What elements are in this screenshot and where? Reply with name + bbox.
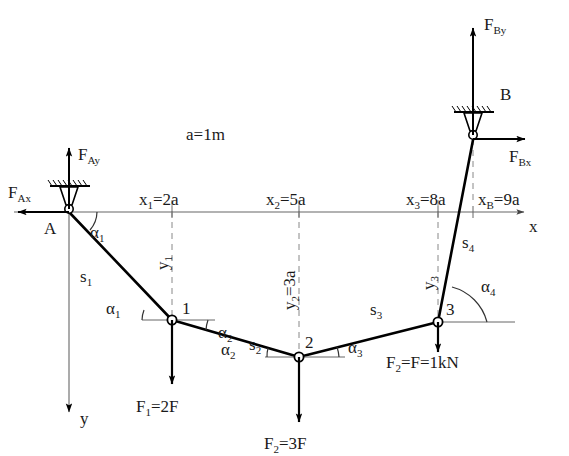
xb-value: =9a <box>494 190 520 209</box>
s4-base: s <box>462 233 469 252</box>
s1-sub: 1 <box>87 276 93 288</box>
s1-base: s <box>80 267 87 286</box>
s4-sub: 4 <box>469 242 475 254</box>
svg-text:s2: s2 <box>249 335 261 356</box>
x-coordinate-label-1: x1=2a <box>139 190 179 211</box>
y-axis-label: y <box>80 409 89 428</box>
f2-value: =3F <box>279 434 307 453</box>
a3-sub: 3 <box>357 347 363 359</box>
truss-members <box>69 140 473 357</box>
load-f2-label: F2=3F <box>264 434 307 455</box>
svg-text:s3: s3 <box>370 300 383 321</box>
member-label-s4: s4 <box>462 233 475 254</box>
a4-base: α <box>481 277 490 296</box>
a1n-base: α <box>106 299 115 318</box>
member-label-s1: s1 <box>80 267 92 288</box>
svg-text:s1: s1 <box>80 267 92 288</box>
fax-base: F <box>8 183 17 202</box>
fay-sub: Ay <box>87 154 100 166</box>
fbx-base: F <box>509 147 518 166</box>
diagram-canvas: x y a=1m x1=2a x2=5a x3=8a xB=9a <box>0 0 569 456</box>
support-b-label: B <box>500 85 511 104</box>
a2b-sub: 2 <box>230 349 236 361</box>
member-s2 <box>172 320 299 357</box>
node-label-1: 1 <box>182 299 191 318</box>
x3-value: =8a <box>420 190 446 209</box>
svg-text:xB=9a: xB=9a <box>478 190 520 211</box>
s2-sub: 2 <box>256 344 262 356</box>
arc-alpha2-at-node1 <box>206 320 208 330</box>
support-a-label: A <box>44 219 57 238</box>
fby-sub: By <box>493 24 506 36</box>
fay-base: F <box>78 145 87 164</box>
angle-label-alpha1-node1: α1 <box>106 299 120 320</box>
load-f3-label: F2=F=1kN <box>386 353 459 374</box>
arc-alpha3-at-node2 <box>337 347 339 357</box>
arc-alpha2-at-node2 <box>267 348 268 357</box>
y-coordinate-label-1: y1 <box>153 256 174 270</box>
s3-base: s <box>370 300 377 319</box>
f1-value: =2F <box>151 397 179 416</box>
xb-sub: B <box>487 199 494 211</box>
svg-text:x1=2a: x1=2a <box>139 190 179 211</box>
reaction-fby-label: FBy <box>484 15 507 36</box>
y-coordinate-label-2: y2=3a <box>280 270 301 310</box>
f2-base: F <box>264 434 273 453</box>
scale-note: a=1m <box>186 125 225 144</box>
svg-text:y2=3a: y2=3a <box>280 270 301 310</box>
angle-label-alpha1-a: α1 <box>90 223 104 244</box>
f1-base: F <box>136 397 145 416</box>
x-coordinate-label-2: x2=5a <box>266 190 306 211</box>
fax-sub: Ax <box>17 192 31 204</box>
svg-text:x3=8a: x3=8a <box>406 190 446 211</box>
a1a-sub: 1 <box>99 232 105 244</box>
y2-value: =3a <box>280 270 299 296</box>
angle-label-alpha2-node2: α2 <box>221 340 235 361</box>
reaction-fay-label: FAy <box>78 145 100 166</box>
a4-sub: 4 <box>490 286 496 298</box>
svg-text:y3: y3 <box>419 276 440 291</box>
a1a-base: α <box>90 223 99 242</box>
node-label-2: 2 <box>305 333 314 352</box>
reaction-fax-label: FAx <box>8 183 31 204</box>
x2-value: =5a <box>280 190 306 209</box>
angle-reference-lines <box>142 320 515 357</box>
a1n-sub: 1 <box>115 308 121 320</box>
s2-base: s <box>249 335 256 354</box>
y3-sub: 3 <box>428 276 440 282</box>
svg-text:x2=5a: x2=5a <box>266 190 306 211</box>
load-f1-label: F1=2F <box>136 397 179 418</box>
y1-sub: 1 <box>162 256 174 262</box>
f3-value: =F=1kN <box>401 353 459 372</box>
f3-base: F <box>386 353 395 372</box>
node-label-3: 3 <box>446 300 455 319</box>
a2b-base: α <box>221 340 230 359</box>
member-s3 <box>299 322 438 357</box>
reaction-fbx-label: FBx <box>509 147 532 168</box>
svg-text:y1: y1 <box>153 256 174 270</box>
y-coordinate-label-3: y3 <box>419 276 440 291</box>
x-coordinate-label-3: x3=8a <box>406 190 446 211</box>
angle-label-alpha4-node3: α4 <box>481 277 496 298</box>
a3-base: α <box>348 338 357 357</box>
fby-base: F <box>484 15 493 34</box>
arc-alpha1-at-node1 <box>142 310 144 320</box>
svg-text:s4: s4 <box>462 233 475 254</box>
x-axis-label: x <box>529 217 538 236</box>
x-coordinate-label-b: xB=9a <box>478 190 520 211</box>
fbx-sub: Bx <box>518 156 531 168</box>
s3-sub: 3 <box>377 309 383 321</box>
member-label-s2: s2 <box>249 335 261 356</box>
x1-value: =2a <box>153 190 179 209</box>
member-label-s3: s3 <box>370 300 383 321</box>
